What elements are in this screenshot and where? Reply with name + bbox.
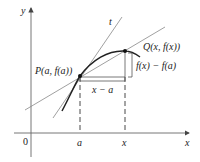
tick-label-x: x [121, 137, 127, 148]
rise-label: f(x) − f(a) [136, 60, 177, 72]
point-q [123, 49, 127, 53]
horizontal-bracket [80, 77, 125, 81]
point-q-label: Q(x, f(x)) [143, 41, 181, 53]
y-axis-label: y [20, 5, 26, 16]
tangent-label: t [109, 16, 112, 27]
point-p [78, 74, 82, 78]
run-label: x − a [91, 84, 113, 95]
vertical-bracket [128, 53, 132, 77]
x-axis-label: x [184, 137, 190, 148]
diagram-canvas: y x 0 a x t P(a, f(a)) Q(x, f(x)) x − a … [0, 0, 200, 162]
point-p-label: P(a, f(a)) [34, 65, 73, 77]
origin-label: 0 [23, 136, 28, 147]
secant-tangent-diagram: y x 0 a x t P(a, f(a)) Q(x, f(x)) x − a … [0, 0, 200, 162]
tick-label-a: a [77, 137, 82, 148]
